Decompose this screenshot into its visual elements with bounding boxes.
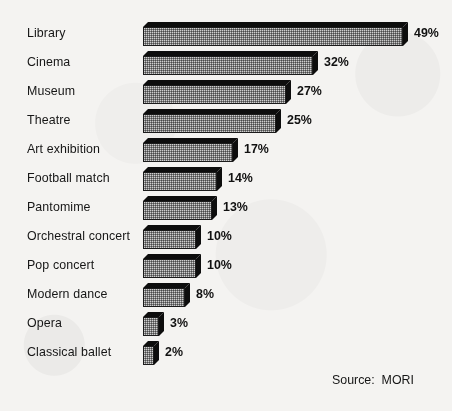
bar-row: Museum27% bbox=[0, 76, 452, 105]
bar-row: Cinema32% bbox=[0, 47, 452, 76]
value-label: 3% bbox=[170, 316, 188, 330]
bar-pop-concert bbox=[143, 254, 201, 279]
category-label: Classical ballet bbox=[27, 345, 111, 359]
bar-art-exhibition bbox=[143, 138, 238, 163]
bar-row: Modern dance8% bbox=[0, 279, 452, 308]
bar-modern-dance bbox=[143, 283, 190, 308]
bar-chart: Library49%Cinema32%Museum27%Theatre25%Ar… bbox=[0, 0, 452, 411]
bar-museum bbox=[143, 80, 291, 105]
bar-side-face bbox=[196, 254, 201, 278]
bar-side-face bbox=[217, 167, 222, 191]
value-label: 10% bbox=[207, 229, 232, 243]
bar-front-face bbox=[143, 56, 313, 75]
category-label: Modern dance bbox=[27, 287, 107, 301]
category-label: Football match bbox=[27, 171, 110, 185]
value-label: 32% bbox=[324, 55, 349, 69]
bar-row: Classical ballet2% bbox=[0, 337, 452, 366]
bar-side-face bbox=[286, 80, 291, 104]
bar-side-face bbox=[212, 196, 217, 220]
bar-pantomime bbox=[143, 196, 217, 221]
bar-row: Orchestral concert10% bbox=[0, 221, 452, 250]
bar-row: Library49% bbox=[0, 18, 452, 47]
bar-front-face bbox=[143, 346, 154, 365]
value-label: 2% bbox=[165, 345, 183, 359]
bar-front-face bbox=[143, 114, 276, 133]
category-label: Cinema bbox=[27, 55, 70, 69]
category-label: Orchestral concert bbox=[27, 229, 130, 243]
category-label: Library bbox=[27, 26, 66, 40]
bar-front-face bbox=[143, 317, 159, 336]
bar-front-face bbox=[143, 27, 403, 46]
category-label: Pantomime bbox=[27, 200, 91, 214]
bar-classical-ballet bbox=[143, 341, 159, 366]
bar-row: Opera3% bbox=[0, 308, 452, 337]
category-label: Museum bbox=[27, 84, 75, 98]
bar-cinema bbox=[143, 51, 318, 76]
bar-row: Pantomime13% bbox=[0, 192, 452, 221]
bar-side-face bbox=[185, 283, 190, 307]
value-label: 49% bbox=[414, 26, 439, 40]
category-label: Theatre bbox=[27, 113, 70, 127]
bar-row: Pop concert10% bbox=[0, 250, 452, 279]
bar-library bbox=[143, 22, 408, 47]
bar-row: Theatre25% bbox=[0, 105, 452, 134]
bar-front-face bbox=[143, 85, 286, 104]
value-label: 14% bbox=[228, 171, 253, 185]
value-label: 8% bbox=[196, 287, 214, 301]
bar-row: Football match14% bbox=[0, 163, 452, 192]
bar-front-face bbox=[143, 259, 196, 278]
category-label: Pop concert bbox=[27, 258, 94, 272]
bar-front-face bbox=[143, 143, 233, 162]
value-label: 27% bbox=[297, 84, 322, 98]
bar-row: Art exhibition17% bbox=[0, 134, 452, 163]
bar-side-face bbox=[154, 341, 159, 365]
bar-opera bbox=[143, 312, 164, 337]
bar-football-match bbox=[143, 167, 222, 192]
bar-side-face bbox=[313, 51, 318, 75]
source-note: Source: MORI bbox=[332, 373, 414, 387]
value-label: 25% bbox=[287, 113, 312, 127]
value-label: 17% bbox=[244, 142, 269, 156]
bar-side-face bbox=[196, 225, 201, 249]
bar-front-face bbox=[143, 172, 217, 191]
value-label: 13% bbox=[223, 200, 248, 214]
bar-side-face bbox=[276, 109, 281, 133]
category-label: Art exhibition bbox=[27, 142, 100, 156]
value-label: 10% bbox=[207, 258, 232, 272]
bar-orchestral-concert bbox=[143, 225, 201, 250]
bar-side-face bbox=[159, 312, 164, 336]
bar-side-face bbox=[233, 138, 238, 162]
bar-front-face bbox=[143, 201, 212, 220]
bar-side-face bbox=[403, 22, 408, 46]
bar-front-face bbox=[143, 230, 196, 249]
bar-front-face bbox=[143, 288, 185, 307]
category-label: Opera bbox=[27, 316, 62, 330]
bar-theatre bbox=[143, 109, 281, 134]
